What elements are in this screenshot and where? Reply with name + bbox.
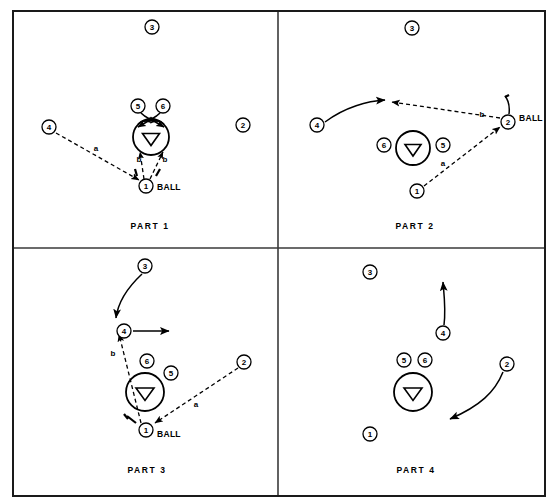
player-marker-4-part-1: 4 (42, 120, 56, 134)
player-marker-5-part-3: 5 (164, 366, 178, 380)
player-number: 4 (441, 329, 446, 338)
player-number: 5 (136, 102, 141, 111)
player-number: 5 (402, 356, 407, 365)
pass-a-part-2 (424, 127, 500, 186)
player-marker-1-part-1: 1 (139, 179, 153, 193)
panel-part-2: 3 4 6 5 1 2 BALL b (310, 21, 543, 231)
ball-label-part-1: BALL (157, 182, 181, 192)
dribble-mark-part-2 (505, 96, 509, 114)
move-4-part-2 (325, 100, 385, 122)
move-4-part-4 (443, 282, 445, 325)
player-marker-5-part-2: 5 (436, 138, 450, 152)
segment-label-a-part-1: a (94, 144, 99, 153)
player-number: 6 (382, 141, 387, 150)
segment-label-b-left-part-1: b (137, 155, 142, 164)
player-marker-1-part-4: 1 (363, 427, 377, 441)
panel-part-4: 3 4 5 6 1 2 PART 4 (363, 265, 514, 475)
player-number: 6 (423, 356, 428, 365)
player-marker-2-part-3: 2 (237, 355, 251, 369)
player-number: 2 (241, 121, 246, 130)
player-number: 1 (415, 187, 420, 196)
pass-a-part-1 (56, 133, 139, 180)
screen-mark-left-part-1 (135, 169, 137, 176)
segment-label-a-part-3: a (194, 400, 199, 409)
key-circle-part-2 (396, 131, 430, 165)
player-marker-5-part-4: 5 (397, 353, 411, 367)
player-marker-1-part-3: 1 (139, 423, 153, 437)
player-number: 2 (242, 358, 247, 367)
player-marker-2-part-4: 2 (500, 357, 514, 371)
key-circle-part-4 (394, 373, 432, 411)
dribble-tip-part-2 (505, 95, 509, 97)
basket-triangle-part-4 (404, 388, 422, 401)
segment-label-b-right-part-1: b (163, 155, 168, 164)
player-number: 2 (505, 360, 510, 369)
basket-triangle-part-1 (143, 134, 160, 146)
player-marker-3-part-3: 3 (138, 259, 152, 273)
part-label-4: PART 4 (396, 465, 435, 475)
ball-label-part-2: BALL (519, 113, 543, 123)
player-number: 3 (150, 23, 155, 32)
part-label-1: PART 1 (130, 221, 169, 231)
play-diagram-canvas: 3 2 4 5 6 1 BALL a (0, 0, 555, 504)
basket-triangle-part-2 (405, 145, 421, 157)
player-marker-1-part-2: 1 (410, 184, 424, 198)
player-marker-6-part-2: 6 (377, 138, 391, 152)
screen-mark-right-part-1 (156, 169, 160, 176)
player-number: 4 (315, 121, 320, 130)
player-number: 3 (368, 268, 373, 277)
segment-label-a-part-2: a (441, 159, 446, 168)
move-2-part-4 (450, 372, 503, 419)
player-marker-5-part-1: 5 (131, 99, 145, 113)
player-marker-4-part-3: 4 (117, 324, 131, 338)
player-marker-6-part-3: 6 (140, 354, 154, 368)
player-marker-2-part-2: 2 (501, 115, 515, 129)
basket-triangle-part-3 (136, 388, 154, 401)
player-marker-3-part-2: 3 (405, 21, 419, 35)
outer-frame (13, 11, 545, 496)
player-marker-3-part-4: 3 (363, 265, 377, 279)
diagram-page: 3 2 4 5 6 1 BALL a (0, 0, 555, 504)
player-marker-4-part-2: 4 (310, 118, 324, 132)
player-number: 6 (161, 102, 166, 111)
part-label-2: PART 2 (395, 221, 434, 231)
player-number: 3 (143, 262, 148, 271)
player-number: 4 (122, 327, 127, 336)
segment-label-b-part-3: b (111, 349, 116, 358)
player-marker-2-part-1: 2 (236, 118, 250, 132)
key-circle-part-3 (126, 373, 164, 411)
part-label-3: PART 3 (127, 465, 166, 475)
player-number: 5 (169, 369, 174, 378)
segment-label-b-part-2: b (480, 110, 485, 119)
player-marker-6-part-4: 6 (418, 353, 432, 367)
move-3-part-3 (116, 274, 142, 318)
player-marker-6-part-1: 6 (156, 99, 170, 113)
player-number: 1 (368, 430, 373, 439)
player-marker-4-part-4: 4 (436, 326, 450, 340)
player-number: 1 (144, 182, 149, 191)
player-number: 6 (145, 357, 150, 366)
player-number: 2 (506, 118, 511, 127)
player-number: 5 (441, 141, 446, 150)
player-marker-3-part-1: 3 (145, 20, 159, 34)
player-number: 3 (410, 24, 415, 33)
panel-part-3: 3 4 6 5 1 2 BALL b (111, 259, 251, 475)
screen-mark-part-3 (127, 416, 136, 423)
player-number: 1 (144, 426, 149, 435)
ball-label-part-3: BALL (157, 429, 181, 439)
panel-part-1: 3 2 4 5 6 1 BALL a (42, 20, 250, 231)
player-number: 4 (47, 123, 52, 132)
screen-mark-tip-part-3 (124, 414, 128, 419)
